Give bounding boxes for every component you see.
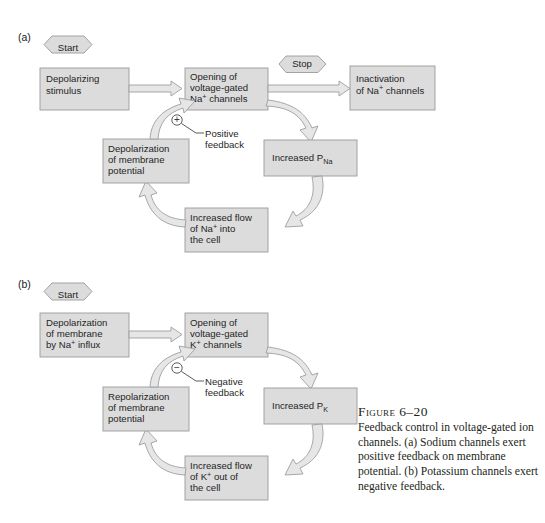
panel-a-opening-line2: voltage-gated — [190, 82, 248, 93]
panel-b-arrow-opening-to-pk — [266, 347, 318, 389]
panel-b-start-label: Start — [58, 289, 79, 300]
panel-b-opening-box: Opening of voltage-gated K+ channels — [185, 313, 268, 357]
panel-a-arrow-flow-to-depol — [139, 181, 186, 227]
panel-a-feedback-label: Positive feedback — [205, 128, 244, 151]
figure-container: (a) Start Depolarizing stimulus Opening … — [0, 0, 545, 523]
panel-a-feedback-line1: Positive — [205, 128, 239, 139]
panel-a-arrow-stimulus-to-opening — [129, 81, 182, 96]
panel-a-opening-box: Opening of voltage-gated Na+ channels — [185, 68, 268, 110]
panel-b-flow-line2: of K+ out of — [190, 470, 238, 482]
figure-caption-body: Feedback control in voltage-gated ion ch… — [358, 421, 542, 495]
panel-b-label: (b) — [18, 278, 31, 290]
panel-a-inactivation-box: Inactivation of Na+ channels — [350, 66, 435, 110]
panel-a-stimulus-line1: Depolarizing — [46, 73, 99, 84]
panel-b-arrow-depolmem-to-opening — [129, 327, 182, 342]
panel-b-depol-membrane-box: Depolarization of membrane by Na+ influx — [40, 313, 129, 357]
panel-a-increased-pna-box: Increased PNa — [264, 140, 357, 176]
panel-a-stop-label: Stop — [292, 58, 312, 69]
panel-a-start-label: Start — [58, 42, 79, 53]
panel-a-plus-symbol: + — [174, 114, 180, 125]
panel-a-feedback-line2: feedback — [205, 139, 244, 150]
panel-b-opening-line1: Opening of — [190, 317, 237, 328]
panel-a-arrow-pna-to-flow — [285, 176, 323, 227]
panel-b-minus-symbol: − — [174, 362, 180, 373]
panel-a: (a) Start Depolarizing stimulus Opening … — [18, 31, 435, 252]
panel-b-flow-line1: Increased flow — [190, 460, 252, 471]
panel-a-opening-line3: Na+ channels — [190, 92, 248, 104]
panel-a-start-node: Start — [44, 36, 92, 53]
panel-a-flow-line3: the cell — [190, 234, 220, 245]
panel-a-depol-line3: potential — [108, 165, 144, 176]
panel-a-arrow-opening-to-inactivation — [268, 81, 350, 96]
panel-b-feedback-line2: feedback — [205, 387, 244, 398]
panel-a-flow-line2: of Na+ into — [190, 222, 235, 234]
panel-b-flow-line3: the cell — [190, 482, 220, 493]
panel-a-opening-line1: Opening of — [190, 71, 237, 82]
panel-b-repolarization-box: Repolarization of membrane potential — [103, 387, 189, 431]
panel-b-arrow-flow-to-repol — [139, 429, 186, 475]
panel-b-depolmem-line1: Depolarization — [46, 317, 107, 328]
panel-b-arrow-pk-to-flow — [285, 424, 323, 475]
panel-b-repol-line1: Repolarization — [108, 391, 169, 402]
panel-b-feedback-label: Negative feedback — [205, 376, 244, 399]
panel-b-repol-line2: of membrane — [108, 402, 165, 413]
panel-b-feedback-sign: − — [172, 362, 204, 381]
panel-a-stimulus-box: Depolarizing stimulus — [40, 68, 129, 110]
figure-caption: Figure 6–20 Feedback control in voltage-… — [358, 404, 542, 495]
panel-b-start-node: Start — [44, 283, 92, 300]
panel-a-depolarization-box: Depolarization of membrane potential — [103, 139, 189, 183]
panel-a-inactivation-line2: of Na+ channels — [356, 83, 424, 95]
panel-a-depol-line2: of membrane — [108, 154, 165, 165]
panel-a-increased-flow-box: Increased flow of Na+ into the cell — [185, 208, 268, 252]
panel-b-repol-line3: potential — [108, 413, 144, 424]
figure-caption-title: Figure 6–20 — [358, 404, 542, 420]
panel-a-label: (a) — [18, 31, 31, 43]
panel-b-increased-pk-box: Increased PK — [264, 388, 357, 424]
panel-b-feedback-line1: Negative — [205, 376, 243, 387]
panel-b: (b) Start Depolarization of membrane by … — [18, 278, 357, 500]
panel-a-flow-line1: Increased flow — [190, 212, 252, 223]
panel-a-feedback-sign: + — [172, 114, 204, 133]
panel-a-arrow-opening-to-pna — [266, 100, 318, 142]
panel-a-depol-line1: Depolarization — [108, 143, 169, 154]
panel-a-stop-node: Stop — [279, 56, 326, 73]
panel-a-stimulus-line2: stimulus — [46, 85, 81, 96]
panel-b-increased-flow-box: Increased flow of K+ out of the cell — [185, 456, 268, 500]
